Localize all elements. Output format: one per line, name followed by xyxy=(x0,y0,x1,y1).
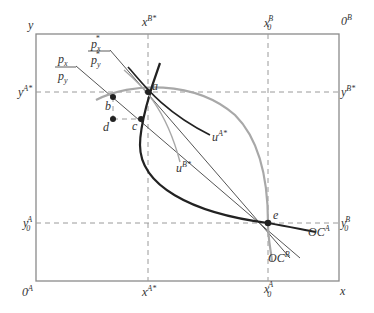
price-ratio-label: px py xyxy=(55,52,76,85)
OC-B-label: OCB xyxy=(268,250,290,265)
u-B-star-label: uB* xyxy=(176,160,191,175)
point-d-dot xyxy=(110,116,116,122)
svg-text:px: px xyxy=(57,52,68,68)
u-A-star-label: uA* xyxy=(212,129,227,144)
point-c-dot xyxy=(138,116,144,122)
x-B-star-label: xB* xyxy=(141,14,156,29)
x0-B-label: xB0 xyxy=(263,14,273,32)
OC-A-label: OCA xyxy=(308,224,330,239)
y0-A-label: yA0 xyxy=(22,215,32,233)
origin-B-label: 0B xyxy=(341,13,352,28)
point-e-dot xyxy=(265,220,272,227)
point-e-label: e xyxy=(273,208,279,222)
svg-text:py*: py* xyxy=(90,50,101,69)
axis-x-label: x xyxy=(339,284,346,298)
y-A-star-label: yA* xyxy=(17,84,32,99)
svg-text:py: py xyxy=(57,69,68,85)
point-b-label: b xyxy=(105,99,111,113)
indifference-curve-A-star xyxy=(128,67,210,135)
y0-B-label: yB0 xyxy=(340,215,350,233)
x0-A-label: xA0 xyxy=(263,280,273,299)
x-A-star-label: xA* xyxy=(141,284,156,299)
point-a-dot xyxy=(145,89,151,95)
point-c-label: c xyxy=(132,119,138,133)
price-ratio-star-label: px* py* xyxy=(88,34,110,69)
point-d-label: d xyxy=(103,120,110,134)
offer-curve-B xyxy=(96,87,272,262)
axis-y-label: y xyxy=(27,18,34,32)
edgeworth-box-diagram: 0A 0B y x xB* xB0 xA* xA0 yA* yA0 yB* yB… xyxy=(0,0,374,313)
point-a-label: a xyxy=(152,79,158,93)
origin-A-label: 0A xyxy=(22,284,33,299)
y-B-star-label: yB* xyxy=(340,84,355,99)
